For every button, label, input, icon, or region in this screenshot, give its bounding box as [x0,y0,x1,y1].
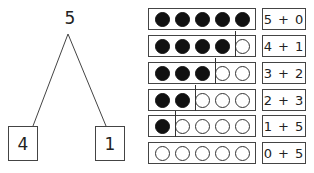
split-divider [215,58,216,84]
split-divider [195,85,196,111]
filled-dot-icon [175,66,190,81]
part-box-left: 4 [8,126,38,161]
filled-dot-icon [215,39,230,54]
filled-dot-icon [215,12,230,27]
empty-dot-icon [195,93,210,108]
dot-frame [148,8,256,30]
empty-dot-icon [175,119,190,134]
filled-dot-icon [195,39,210,54]
empty-dot-icon [235,93,250,108]
dot-frame [148,115,256,137]
empty-dot-icon [215,119,230,134]
empty-dot-icon [195,146,210,161]
empty-dot-icon [235,146,250,161]
expression-box: 5 + 0 [262,8,306,30]
expression-box: 4 + 1 [262,35,306,57]
empty-dot-icon [175,146,190,161]
dot-frame [148,89,256,111]
whole-number: 5 [60,8,80,28]
part-box-right: 1 [95,126,125,161]
filled-dot-icon [195,12,210,27]
filled-dot-icon [155,119,170,134]
filled-dot-icon [155,93,170,108]
empty-dot-icon [235,39,250,54]
filled-dot-icon [175,12,190,27]
filled-dot-icon [155,12,170,27]
expression-box: 3 + 2 [262,62,306,84]
empty-dot-icon [215,66,230,81]
number-bond-diagram: 5 4 1 [0,0,140,173]
filled-dot-icon [175,39,190,54]
split-divider [175,111,176,137]
filled-dot-icon [155,39,170,54]
expression-box: 1 + 5 [262,115,306,137]
empty-dot-icon [235,119,250,134]
expression-box: 2 + 3 [262,89,306,111]
empty-dot-icon [215,93,230,108]
empty-dot-icon [155,146,170,161]
empty-dot-icon [195,119,210,134]
expression-box: 0 + 5 [262,142,306,164]
filled-dot-icon [155,66,170,81]
empty-dot-icon [215,146,230,161]
dot-frame [148,35,256,57]
filled-dot-icon [195,66,210,81]
dot-frame [148,62,256,84]
filled-dot-icon [235,12,250,27]
empty-dot-icon [235,66,250,81]
dot-frame [148,142,256,164]
split-divider [235,31,236,57]
filled-dot-icon [175,93,190,108]
